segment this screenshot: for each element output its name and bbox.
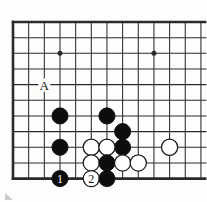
black-stone[interactable] (52, 171, 68, 187)
stone-disc (52, 171, 68, 187)
white-stone[interactable] (162, 139, 178, 155)
stone-disc (99, 139, 115, 155)
white-stone[interactable] (130, 155, 146, 171)
white-stone[interactable] (83, 171, 99, 187)
stone-disc (115, 155, 131, 171)
stone-disc (99, 155, 115, 171)
stone-disc (99, 171, 115, 187)
board-marker-a: A (39, 78, 50, 91)
goban-grid (0, 0, 207, 202)
stone-disc (162, 139, 178, 155)
black-stone[interactable] (52, 139, 68, 155)
black-stone[interactable] (115, 124, 131, 140)
go-board-diagram: 12A (0, 0, 207, 202)
black-stone[interactable] (99, 108, 115, 124)
white-stone[interactable] (115, 155, 131, 171)
black-stone[interactable] (52, 108, 68, 124)
stone-disc (99, 108, 115, 124)
stone-disc (52, 108, 68, 124)
stone-disc (115, 139, 131, 155)
star-point (151, 51, 156, 56)
star-point (57, 51, 62, 56)
stone-disc (83, 171, 99, 187)
white-stone[interactable] (83, 155, 99, 171)
stone-disc (115, 124, 131, 140)
black-stone[interactable] (115, 139, 131, 155)
black-stone[interactable] (99, 171, 115, 187)
stone-disc (83, 155, 99, 171)
white-stone[interactable] (99, 139, 115, 155)
stone-disc (52, 139, 68, 155)
stone-disc (83, 139, 99, 155)
black-stone[interactable] (99, 155, 115, 171)
white-stone[interactable] (83, 139, 99, 155)
stone-disc (130, 155, 146, 171)
